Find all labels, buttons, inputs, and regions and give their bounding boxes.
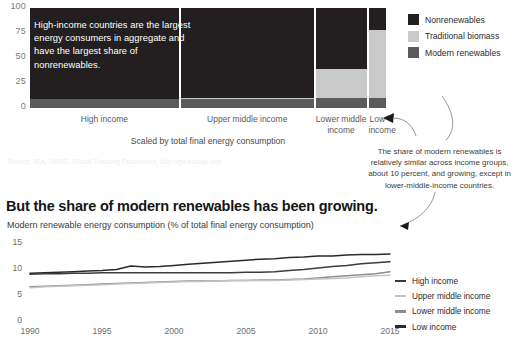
infographic-root: 0255075100 High-income countries are the… xyxy=(0,0,517,355)
legend-swatch-icon xyxy=(408,31,419,42)
legend-line-swatch-icon xyxy=(395,325,406,327)
legend-label: Traditional biomass xyxy=(425,31,499,41)
legend-label: Upper middle income xyxy=(412,291,490,301)
legend-line-swatch-icon xyxy=(395,310,406,312)
marimekko-y-tick: 25 xyxy=(16,77,26,86)
marimekko-y-tick: 100 xyxy=(10,2,26,11)
legend-item[interactable]: Nonrenewables xyxy=(408,14,517,25)
legend-swatch-icon xyxy=(408,47,419,58)
marimekko-segment[interactable] xyxy=(181,8,314,98)
marimekko-segment[interactable] xyxy=(316,8,367,69)
legend-item[interactable]: Low income xyxy=(395,322,517,332)
line-chart-legend: High incomeUpper middle incomeLower midd… xyxy=(395,276,517,337)
legend-label: Nonrenewables xyxy=(425,15,485,25)
line-series xyxy=(30,262,390,274)
marimekko-y-tick: 0 xyxy=(21,102,26,111)
marimekko-column[interactable] xyxy=(369,8,387,108)
marimekko-y-tick: 75 xyxy=(16,27,26,36)
marimekko-y-tick: 50 xyxy=(16,52,26,61)
marimekko-segment[interactable] xyxy=(316,98,367,108)
marimekko-segment[interactable] xyxy=(316,69,367,98)
legend-item[interactable]: High income xyxy=(395,276,517,286)
legend-label: Lower middle income xyxy=(412,306,490,316)
legend-label: High income xyxy=(412,276,458,286)
line-series xyxy=(30,254,390,273)
page-subtitle: Modern renewable energy consumption (% o… xyxy=(7,220,314,230)
annotation-text: The share of modern renewables is relati… xyxy=(362,146,517,191)
marimekko-scale-note: Scaled by total final energy consumption xyxy=(30,136,386,146)
marimekko-segment[interactable] xyxy=(30,99,179,108)
marimekko-callout-text: High-income countries are the largest en… xyxy=(34,19,194,72)
marimekko-legend: NonrenewablesTraditional biomassModern r… xyxy=(408,14,517,64)
marimekko-segment[interactable] xyxy=(181,99,314,108)
legend-item[interactable]: Modern renewables xyxy=(408,47,517,58)
legend-label: Low income xyxy=(412,322,456,332)
legend-item[interactable]: Lower middle income xyxy=(395,306,517,316)
marimekko-segment[interactable] xyxy=(369,30,387,98)
marimekko-segment[interactable] xyxy=(369,8,387,30)
legend-item[interactable]: Upper middle income xyxy=(395,291,517,301)
source-citation: Source: IEA, UNSD, Global Tracking Frame… xyxy=(8,158,222,165)
legend-label: Modern renewables xyxy=(425,48,500,58)
legend-item[interactable]: Traditional biomass xyxy=(408,31,517,42)
legend-line-swatch-icon xyxy=(395,280,406,282)
marimekko-y-axis: 0255075100 xyxy=(0,6,26,110)
marimekko-segment[interactable] xyxy=(369,98,387,108)
page-title: But the share of modern renewables has b… xyxy=(6,198,378,214)
legend-swatch-icon xyxy=(408,14,419,25)
marimekko-column[interactable] xyxy=(181,8,314,108)
legend-line-swatch-icon xyxy=(395,295,406,297)
marimekko-column[interactable] xyxy=(316,8,367,108)
